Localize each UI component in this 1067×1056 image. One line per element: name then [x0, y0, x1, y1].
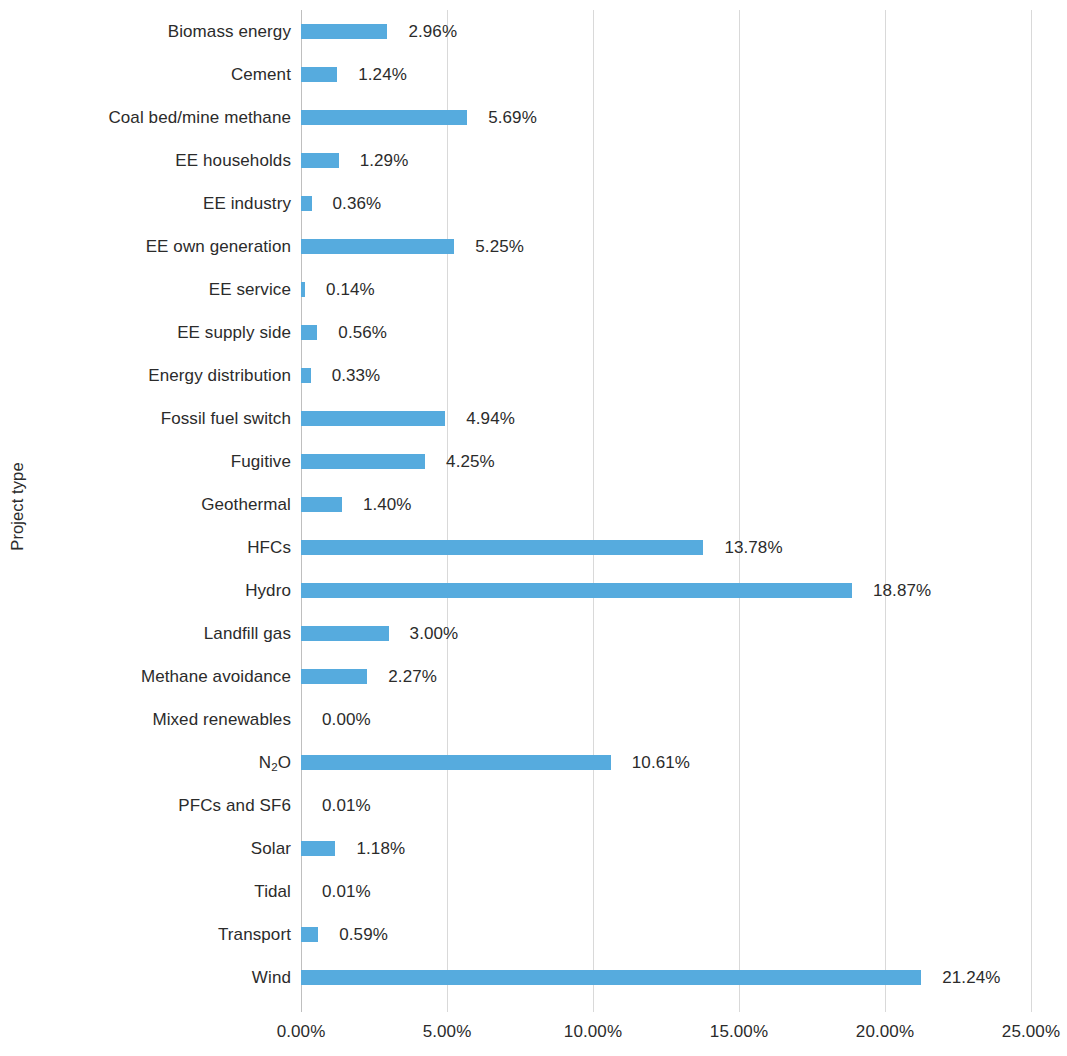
bar[interactable]: [301, 325, 317, 340]
category-label: EE households: [175, 139, 291, 182]
category-label: Landfill gas: [204, 612, 291, 655]
bar[interactable]: [301, 196, 312, 211]
bar-row[interactable]: EE supply side0.56%: [0, 311, 1067, 354]
bar-row[interactable]: Transport0.59%: [0, 913, 1067, 956]
bar-row[interactable]: N2O10.61%: [0, 741, 1067, 784]
value-label: 0.01%: [322, 784, 371, 827]
category-label: EE own generation: [146, 225, 291, 268]
category-label: N2O: [259, 741, 291, 784]
bar[interactable]: [301, 540, 703, 555]
bar-row[interactable]: Mixed renewables0.00%: [0, 698, 1067, 741]
bar-row[interactable]: EE own generation5.25%: [0, 225, 1067, 268]
bar-row[interactable]: Tidal0.01%: [0, 870, 1067, 913]
x-tick-label: 15.00%: [710, 1022, 768, 1042]
x-axis: 0.00%5.00%10.00%15.00%20.00%25.00%: [0, 1014, 1067, 1056]
value-label: 0.56%: [338, 311, 387, 354]
bar[interactable]: [301, 755, 611, 770]
bar-row[interactable]: EE service0.14%: [0, 268, 1067, 311]
value-label: 18.87%: [873, 569, 931, 612]
bar-chart: Project type Biomass energy2.96%Cement1.…: [0, 0, 1067, 1056]
value-label: 0.14%: [326, 268, 375, 311]
bar[interactable]: [301, 583, 852, 598]
bar-row[interactable]: Fugitive4.25%: [0, 440, 1067, 483]
x-tick-label: 25.00%: [1002, 1022, 1060, 1042]
bar-row[interactable]: PFCs and SF60.01%: [0, 784, 1067, 827]
bar-row[interactable]: EE households1.29%: [0, 139, 1067, 182]
value-label: 3.00%: [410, 612, 459, 655]
value-label: 0.33%: [332, 354, 381, 397]
bar[interactable]: [301, 239, 454, 254]
bar-row[interactable]: Biomass energy2.96%: [0, 10, 1067, 53]
value-label: 0.59%: [339, 913, 388, 956]
category-label: Hydro: [245, 569, 291, 612]
bar[interactable]: [301, 153, 339, 168]
bar-row[interactable]: Hydro18.87%: [0, 569, 1067, 612]
value-label: 1.40%: [363, 483, 412, 526]
bar[interactable]: [301, 970, 921, 985]
bar[interactable]: [301, 67, 337, 82]
bar-row[interactable]: Wind21.24%: [0, 956, 1067, 999]
category-label: Coal bed/mine methane: [108, 96, 291, 139]
category-label: PFCs and SF6: [178, 784, 291, 827]
category-label: EE supply side: [177, 311, 291, 354]
value-label: 4.25%: [446, 440, 495, 483]
value-label: 5.69%: [488, 96, 537, 139]
bar[interactable]: [301, 927, 318, 942]
category-label: Fossil fuel switch: [161, 397, 291, 440]
bar-row[interactable]: Solar1.18%: [0, 827, 1067, 870]
category-label: Cement: [231, 53, 291, 96]
category-label: Energy distribution: [148, 354, 291, 397]
bar-row[interactable]: Energy distribution0.33%: [0, 354, 1067, 397]
bar-row[interactable]: Coal bed/mine methane5.69%: [0, 96, 1067, 139]
bar[interactable]: [301, 282, 305, 297]
bar-row[interactable]: HFCs13.78%: [0, 526, 1067, 569]
bar-rows: Biomass energy2.96%Cement1.24%Coal bed/m…: [0, 0, 1067, 1012]
category-label: Methane avoidance: [141, 655, 291, 698]
x-tick-label: 5.00%: [423, 1022, 472, 1042]
category-label: Solar: [251, 827, 291, 870]
value-label: 1.29%: [360, 139, 409, 182]
bar-row[interactable]: Cement1.24%: [0, 53, 1067, 96]
bar[interactable]: [301, 110, 467, 125]
category-label: EE service: [209, 268, 291, 311]
value-label: 1.18%: [356, 827, 405, 870]
value-label: 4.94%: [466, 397, 515, 440]
value-label: 10.61%: [632, 741, 690, 784]
x-tick-label: 0.00%: [277, 1022, 326, 1042]
bar-row[interactable]: Landfill gas3.00%: [0, 612, 1067, 655]
bar-row[interactable]: Fossil fuel switch4.94%: [0, 397, 1067, 440]
category-label: Fugitive: [231, 440, 291, 483]
x-tick-label: 20.00%: [856, 1022, 914, 1042]
value-label: 0.01%: [322, 870, 371, 913]
bar[interactable]: [301, 411, 445, 426]
bar-row[interactable]: Geothermal1.40%: [0, 483, 1067, 526]
value-label: 1.24%: [358, 53, 407, 96]
bar[interactable]: [301, 497, 342, 512]
bar[interactable]: [301, 669, 367, 684]
category-label: Tidal: [254, 870, 291, 913]
value-label: 0.00%: [322, 698, 371, 741]
bar[interactable]: [301, 626, 389, 641]
category-label: EE industry: [203, 182, 291, 225]
bar[interactable]: [301, 368, 311, 383]
category-label: Wind: [252, 956, 291, 999]
value-label: 2.27%: [388, 655, 437, 698]
category-label: Geothermal: [201, 483, 291, 526]
category-label: Transport: [218, 913, 291, 956]
value-label: 2.96%: [408, 10, 457, 53]
category-label: HFCs: [247, 526, 291, 569]
category-label: Biomass energy: [168, 10, 291, 53]
bar[interactable]: [301, 454, 425, 469]
value-label: 13.78%: [724, 526, 782, 569]
bar-row[interactable]: Methane avoidance2.27%: [0, 655, 1067, 698]
category-label: Mixed renewables: [152, 698, 291, 741]
value-label: 21.24%: [942, 956, 1000, 999]
bar[interactable]: [301, 24, 387, 39]
bar[interactable]: [301, 841, 335, 856]
bar-row[interactable]: EE industry0.36%: [0, 182, 1067, 225]
value-label: 0.36%: [333, 182, 382, 225]
x-tick-label: 10.00%: [564, 1022, 622, 1042]
value-label: 5.25%: [475, 225, 524, 268]
